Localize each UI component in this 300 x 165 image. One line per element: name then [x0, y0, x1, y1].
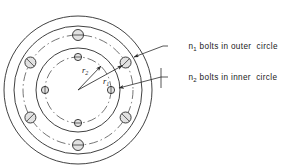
outer-bolt — [120, 112, 131, 123]
outer-bolt — [25, 112, 36, 123]
outer-circle-note: n1 bolts in outer circle — [170, 42, 291, 52]
radius-r2-label: r2 — [82, 65, 88, 76]
figure-canvas: r2 r1 n1 bolts in outer circle n2 bolts … — [0, 0, 300, 165]
outer-bolt — [25, 57, 36, 68]
inner-bolt — [107, 86, 114, 93]
inner-callout-leader — [119, 68, 168, 88]
outer-bolt — [73, 140, 84, 151]
outer-bolt — [73, 30, 84, 41]
bolted-flange-diagram: r2 r1 n1 bolts in outer circle n2 bolts … — [0, 0, 300, 165]
inner-bolt — [41, 86, 48, 93]
inner-bolt — [74, 119, 81, 126]
inner-bolt — [74, 53, 81, 60]
inner-circle-note: n2 bolts in inner circle — [170, 73, 291, 83]
